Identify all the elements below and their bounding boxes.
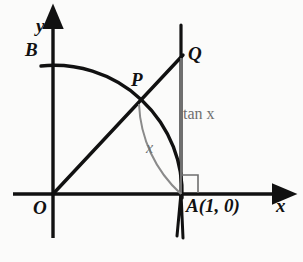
- y-axis-label: y: [36, 16, 44, 35]
- point-label-q: Q: [188, 44, 202, 63]
- point-label-p: P: [131, 70, 143, 89]
- origin-label: O: [33, 198, 47, 217]
- x-axis-label: x: [276, 196, 286, 215]
- tangent-line-lower: [177, 193, 183, 238]
- point-label-b: B: [25, 40, 38, 59]
- trig-diagram-figure: y B P Q O A(1, 0) x tan x x: [0, 0, 303, 262]
- tan-x-label: tan x: [183, 106, 215, 122]
- point-label-a: A(1, 0): [186, 196, 240, 215]
- angle-label-x: x: [146, 140, 153, 156]
- diagram-canvas: [0, 0, 303, 262]
